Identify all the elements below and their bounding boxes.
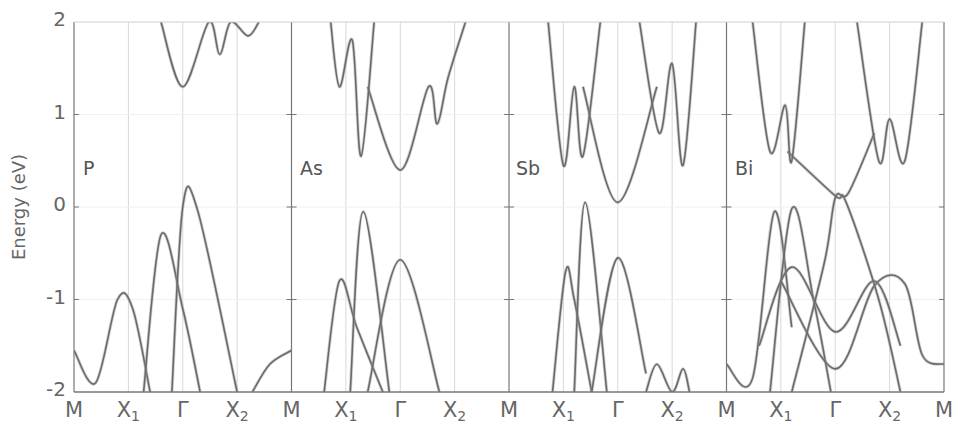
panel-label-sb: Sb xyxy=(516,157,540,179)
x-tick-label: X2 xyxy=(225,398,248,424)
x-tick-label: X1 xyxy=(552,398,575,424)
x-tick-label: M xyxy=(935,398,953,422)
y-tick-2: 2 xyxy=(26,7,66,31)
x-tick-label: M xyxy=(717,398,735,422)
y-tick-neg2: -2 xyxy=(26,377,66,401)
x-tick-label: Γ xyxy=(177,398,189,422)
x-tick-label: M xyxy=(282,398,300,422)
x-tick-label: X1 xyxy=(117,398,140,424)
x-tick-label: Γ xyxy=(394,398,406,422)
x-tick-label: Γ xyxy=(829,398,841,422)
x-tick-label: M xyxy=(500,398,518,422)
x-tick-label: X2 xyxy=(878,398,901,424)
band-structure-chart xyxy=(0,0,964,438)
x-tick-label: Γ xyxy=(612,398,624,422)
x-tick-label: X2 xyxy=(443,398,466,424)
x-tick-label: X2 xyxy=(660,398,683,424)
x-tick-label: X1 xyxy=(334,398,357,424)
x-tick-label: X1 xyxy=(769,398,792,424)
y-tick-1: 1 xyxy=(26,100,66,124)
panel-label-as: As xyxy=(300,157,323,179)
x-tick-label: M xyxy=(65,398,83,422)
panel-label-p: P xyxy=(83,157,94,179)
panel-label-bi: Bi xyxy=(735,157,753,179)
y-tick-neg1: -1 xyxy=(26,285,66,309)
y-tick-0: 0 xyxy=(26,192,66,216)
